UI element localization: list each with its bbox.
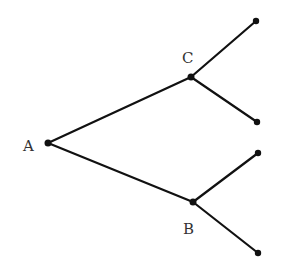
node-a	[45, 140, 52, 147]
nodes	[45, 18, 262, 256]
tree-diagram-svg: A C B	[0, 0, 284, 273]
node-c1-leaf	[253, 18, 259, 24]
label-c: C	[182, 49, 193, 67]
node-b	[190, 199, 197, 206]
edges	[48, 21, 258, 253]
node-c2-leaf	[254, 119, 260, 125]
edge-b-b1	[193, 153, 258, 202]
edge-b-b2	[193, 202, 258, 253]
node-b1-leaf	[255, 150, 261, 156]
node-b2-leaf	[255, 250, 261, 256]
label-b: B	[183, 220, 194, 238]
label-a: A	[22, 137, 34, 155]
edge-c-c1	[191, 21, 256, 77]
edge-a-c	[48, 77, 191, 143]
edge-c-c2	[191, 77, 257, 122]
tree-diagram: A C B	[0, 0, 284, 273]
node-c	[188, 74, 195, 81]
edge-a-b	[48, 143, 193, 202]
